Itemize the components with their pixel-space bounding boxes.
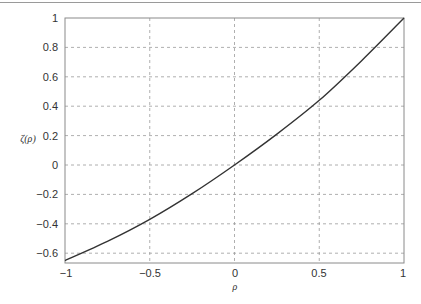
y-axis-ticks: 1 0.8 0.6 0.4 0.2 0 −0.2 −0.4 −0.6 (36, 12, 58, 259)
x-tick-label: 1 (400, 267, 406, 279)
y-tick-label: 0.4 (43, 100, 58, 112)
y-tick-label: −0.4 (36, 218, 58, 230)
y-axis-label: ζ(ρ) (20, 133, 36, 145)
x-tick-label: −0.5 (139, 267, 161, 279)
line-chart: 1 0.8 0.6 0.4 0.2 0 −0.2 −0.4 −0.6 −1 −0… (0, 0, 421, 304)
x-tick-label: 0 (232, 267, 238, 279)
x-tick-label: 0.5 (311, 267, 326, 279)
y-tick-label: −0.2 (36, 188, 58, 200)
x-axis-label: ρ (232, 281, 238, 292)
y-tick-label: 0.2 (43, 130, 58, 142)
y-tick-label: 0 (52, 159, 58, 171)
y-tick-label: 0.6 (43, 71, 58, 83)
x-axis-ticks: −1 −0.5 0 0.5 1 (60, 267, 406, 279)
x-tick-label: −1 (60, 267, 73, 279)
grid-lines (65, 18, 404, 263)
y-tick-label: −0.6 (36, 247, 58, 259)
y-tick-label: 0.8 (43, 41, 58, 53)
y-tick-label: 1 (52, 12, 58, 24)
